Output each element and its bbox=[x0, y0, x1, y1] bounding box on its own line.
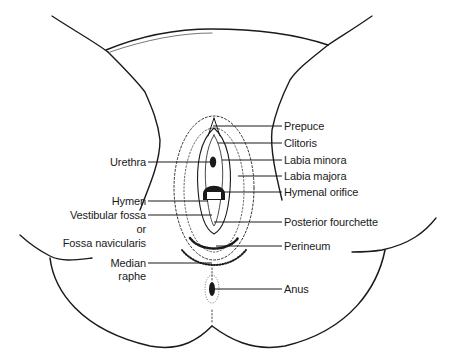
label-labia-minora: Labia minora bbox=[284, 154, 346, 166]
label-clitoris: Clitoris bbox=[284, 137, 317, 149]
left-thigh-outline bbox=[52, 16, 108, 52]
label-anus: Anus bbox=[284, 283, 309, 295]
labia-minora-outline bbox=[198, 128, 231, 234]
label-raphe: raphe bbox=[60, 270, 146, 282]
label-hymen: Hymen bbox=[60, 195, 146, 207]
label-posterior-fourchette: Posterior fourchette bbox=[284, 216, 378, 228]
label-perineum: Perineum bbox=[284, 240, 330, 252]
label-fossa-navicularis: Fossa navicularis bbox=[20, 237, 146, 249]
label-median: Median bbox=[60, 257, 146, 269]
label-vestibular-fossa: Vestibular fossa bbox=[20, 209, 146, 221]
label-hymenal-orifice: Hymenal orifice bbox=[284, 186, 358, 198]
right-buttock-outline bbox=[212, 250, 385, 347]
right-thigh-outline bbox=[328, 16, 372, 45]
label-labia-majora: Labia majora bbox=[284, 170, 346, 182]
diagram-drawing bbox=[0, 0, 456, 362]
anatomy-diagram: Prepuce Clitoris Labia minora Labia majo… bbox=[0, 0, 456, 362]
label-prepuce: Prepuce bbox=[284, 120, 324, 132]
mons-outline bbox=[106, 29, 328, 50]
left-groin-line bbox=[108, 52, 160, 210]
label-or: or bbox=[60, 223, 146, 235]
label-urethra: Urethra bbox=[60, 156, 146, 168]
